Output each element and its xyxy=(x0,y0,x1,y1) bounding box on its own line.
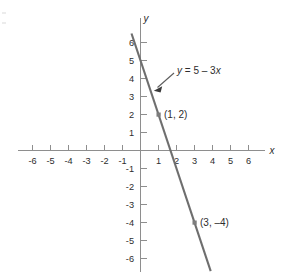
y-tick-label: -5 xyxy=(126,236,134,246)
y-tick-label: -3 xyxy=(126,200,134,210)
y-tick-label: -4 xyxy=(126,218,134,228)
equation-label-x: x xyxy=(215,65,222,76)
x-tick-label: 5 xyxy=(228,156,233,166)
x-tick-label: 4 xyxy=(210,156,215,166)
y-tick-label: -6 xyxy=(126,254,134,264)
y-tick-label: 5 xyxy=(129,56,134,66)
equation-label-body: = 5 – 3 xyxy=(182,65,216,76)
y-tick-label: -1 xyxy=(126,164,134,174)
x-tick-label: 1 xyxy=(156,156,161,166)
y-axis-label: y xyxy=(143,13,150,24)
scan-artifact xyxy=(2,12,6,14)
scan-artifact xyxy=(2,22,6,24)
x-axis-label: x xyxy=(269,145,276,156)
y-tick-label: 3 xyxy=(129,92,134,102)
data-point-marker xyxy=(193,221,197,225)
point-label-1-2: (1, 2) xyxy=(164,109,187,120)
x-tick-labels: -6 -5 -4 -3 -2 -1 1 2 3 4 5 6 xyxy=(28,156,251,166)
coordinate-plane-graph: -6 -5 -4 -3 -2 -1 1 2 3 4 5 6 6 5 4 3 2 … xyxy=(0,0,288,280)
y-tick-label: -2 xyxy=(126,182,134,192)
y-tick-label: 1 xyxy=(129,128,134,138)
point-label-3-neg4: (3, –4) xyxy=(200,217,229,228)
y-tick-label: 4 xyxy=(129,74,134,84)
y-tick-label: 2 xyxy=(129,110,134,120)
equation-leader-line xyxy=(158,73,175,88)
x-tick-label: -2 xyxy=(100,156,108,166)
x-tick-label: 3 xyxy=(192,156,197,166)
x-tick-label: -6 xyxy=(28,156,36,166)
data-point-marker xyxy=(157,113,161,117)
equation-label: y = 5 – 3x xyxy=(176,65,222,76)
x-tick-label: 6 xyxy=(246,156,251,166)
x-tick-label: -3 xyxy=(82,156,90,166)
graph-canvas: -6 -5 -4 -3 -2 -1 1 2 3 4 5 6 6 5 4 3 2 … xyxy=(0,0,288,280)
x-tick-label: -5 xyxy=(46,156,54,166)
x-tick-label: -4 xyxy=(64,156,72,166)
